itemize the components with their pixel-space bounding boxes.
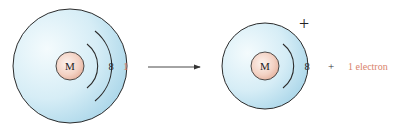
shell-count-8: 8 [108,61,113,72]
ion-shell-count-8: 8 [304,61,309,72]
neutral-atom: M 8 1 [13,9,128,123]
ionization-diagram: M 8 1 M 8 + + 1 electron [0,0,402,131]
cation: M 8 + [222,14,310,109]
electron-label: 1 electron [348,61,388,72]
shell-count-1: 1 [123,62,128,72]
ion-nucleus-label: M [260,60,270,72]
plus-sign: + [328,60,334,72]
ion-charge: + [299,14,309,34]
nucleus-label: M [65,60,75,72]
